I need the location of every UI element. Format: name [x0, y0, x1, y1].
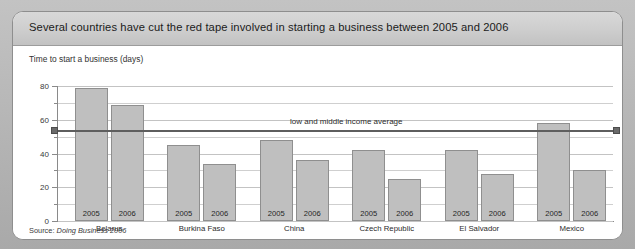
y-axis-labels: 020406080 [13, 46, 49, 240]
bar-year-label: 2006 [482, 209, 513, 218]
bar: 2006 [203, 164, 236, 221]
y-axis-tick [52, 221, 57, 222]
bar-year-label: 2006 [297, 209, 328, 218]
bar: 2005 [260, 140, 293, 221]
bar-year-label: 2006 [574, 209, 605, 218]
bar-year-label: 2006 [204, 209, 235, 218]
y-axis-tick-minor [54, 170, 57, 171]
bar-year-label: 2005 [353, 209, 384, 218]
y-axis-tick [52, 86, 57, 87]
bar: 2005 [75, 88, 108, 221]
bar-year-label: 2005 [538, 209, 569, 218]
reference-line-label: low and middle income average [290, 117, 403, 126]
bar: 2006 [111, 105, 144, 221]
bar: 2005 [537, 123, 570, 221]
bar-year-label: 2005 [168, 209, 199, 218]
bar: 2006 [388, 179, 421, 221]
page-title: Several countries have cut the red tape … [29, 21, 509, 33]
plot-area: 2005200620052006200520062005200620052006… [58, 86, 613, 221]
chart-title-band: Several countries have cut the red tape … [13, 12, 622, 46]
y-axis-tick-label: 0 [19, 217, 49, 226]
y-axis-tick-minor [54, 204, 57, 205]
bar-year-label: 2005 [76, 209, 107, 218]
gridline-major [58, 221, 613, 222]
bar-year-label: 2005 [446, 209, 477, 218]
bar: 2006 [573, 170, 606, 221]
bar: 2005 [167, 145, 200, 221]
y-axis-tick [52, 187, 57, 188]
chart-card: Several countries have cut the red tape … [12, 11, 623, 240]
x-axis-category-label: Belarus [63, 224, 156, 233]
y-axis-tick-label: 20 [19, 183, 49, 192]
bar: 2005 [445, 150, 478, 221]
chart-body: Time to start a business (days) 02040608… [13, 46, 622, 240]
screenshot-root: Several countries have cut the red tape … [0, 0, 635, 249]
x-axis-category-label: China [248, 224, 341, 233]
bar-year-label: 2005 [261, 209, 292, 218]
gridline-major [58, 86, 613, 87]
reference-line-endpoint [51, 127, 58, 134]
y-axis-tick-minor [54, 137, 57, 138]
y-axis-tick-label: 40 [19, 149, 49, 158]
y-axis-tick-label: 80 [19, 82, 49, 91]
y-axis-tick-label: 60 [19, 115, 49, 124]
reference-line [54, 130, 617, 132]
y-axis-tick [52, 120, 57, 121]
y-axis-tick [52, 154, 57, 155]
source-label: Source: [29, 226, 54, 235]
bar-year-label: 2006 [112, 209, 143, 218]
bar-year-label: 2006 [389, 209, 420, 218]
x-axis-category-label: Mexico [526, 224, 619, 233]
bar: 2005 [352, 150, 385, 221]
reference-line-endpoint [613, 127, 620, 134]
bar: 2006 [481, 174, 514, 221]
x-axis-category-label: Czech Republic [341, 224, 434, 233]
x-axis-category-label: El Salvador [433, 224, 526, 233]
bar: 2006 [296, 160, 329, 221]
x-axis-category-label: Burkina Faso [156, 224, 249, 233]
y-axis-tick-minor [54, 103, 57, 104]
